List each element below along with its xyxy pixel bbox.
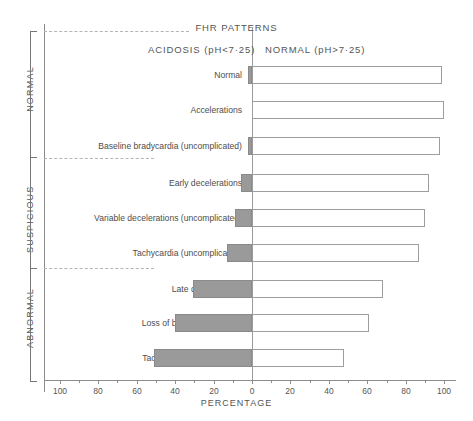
normal-header: NORMAL (pH>7·25) [265,44,365,55]
x-tick-label: 60 [362,386,371,396]
x-tick-label: 100 [53,386,67,396]
bar-acidosis [241,174,253,192]
chart-row: Normal [0,64,473,86]
x-tick-label: 0 [250,386,255,396]
bar-acidosis [193,280,253,298]
bar-normal [252,66,442,84]
x-tick-minor [156,380,157,383]
x-tick-minor [194,380,195,383]
bar-normal [252,101,444,119]
chart-row: Loss of baseline variability [0,312,473,334]
bar-acidosis [235,209,252,227]
x-tick-label: 80 [93,386,102,396]
acidosis-header: ACIDOSIS (pH<7·25) [148,44,255,55]
x-tick [252,380,253,384]
x-tick-minor [387,380,388,383]
x-tick-minor [271,380,272,383]
x-tick [406,380,407,384]
x-tick-minor [117,380,118,383]
x-tick-minor [425,380,426,383]
x-tick-minor [233,380,234,383]
x-tick-label: 20 [209,386,218,396]
x-tick [98,380,99,384]
x-tick [214,380,215,384]
x-tick [367,380,368,384]
bar-normal [252,280,383,298]
x-tick-label: 40 [324,386,333,396]
x-tick [60,380,61,384]
x-tick-label: 40 [170,386,179,396]
x-tick [290,380,291,384]
x-tick [175,380,176,384]
x-tick-label: 60 [132,386,141,396]
row-label: Tachycardia (uncomplicated) [133,248,242,258]
bar-acidosis [154,349,252,367]
x-tick-label: 20 [285,386,294,396]
separator-suspicious-abnormal [44,268,154,269]
x-tick-label: 100 [437,386,451,396]
plot-area: FHR PATTERNS ACIDOSIS (pH<7·25) NORMAL (… [0,0,473,421]
x-axis-label: PERCENTAGE [0,398,473,408]
bar-normal [252,209,425,227]
row-label: Early decelerations [169,178,242,188]
bar-normal [252,244,419,262]
x-tick-minor [310,380,311,383]
separator-normal-suspicious [44,158,154,159]
x-tick-label: 80 [401,386,410,396]
separator-top [44,31,189,32]
chart-row: Baseline bradycardia (uncomplicated) [0,135,473,157]
row-label: Variable decelerations (uncomplicated) [94,213,242,223]
chart-row: Variable decelerations (uncomplicated) [0,207,473,229]
x-axis-line [44,380,456,381]
chart-row: Tachycardia (uncomplicated) [0,242,473,264]
bar-normal [252,314,369,332]
chart-root: NORMAL SUSPICIOUS ABNORMAL FHR PATTERNS … [0,0,473,421]
chart-row: Accelerations [0,99,473,121]
row-label: Normal [214,70,242,80]
x-tick [444,380,445,384]
x-tick-minor [79,380,80,383]
x-tick-minor [348,380,349,383]
row-label: Accelerations [190,105,242,115]
bar-normal [252,174,429,192]
bar-acidosis [227,244,252,262]
chart-row: Late decelerations [0,278,473,300]
x-tick [137,380,138,384]
bar-normal [252,349,344,367]
chart-row: Tachycardia (complicated) [0,347,473,369]
bar-normal [252,137,440,155]
bar-acidosis [175,314,252,332]
chart-row: Early decelerations [0,172,473,194]
row-label: Baseline bradycardia (uncomplicated) [98,141,242,151]
x-tick [329,380,330,384]
